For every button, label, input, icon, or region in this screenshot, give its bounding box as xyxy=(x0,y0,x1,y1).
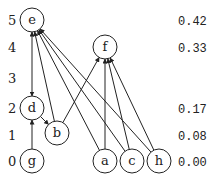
edge-d-b xyxy=(40,116,48,124)
node-b: b xyxy=(45,121,69,145)
level-label: 0 xyxy=(8,154,16,169)
level-value: 0.00 xyxy=(178,156,207,170)
level-label: 5 xyxy=(8,13,16,28)
level-value: 0.08 xyxy=(178,130,207,144)
node-a: a xyxy=(93,149,117,173)
level-label: 3 xyxy=(8,71,16,86)
level-values: 0.420.330.170.080.00 xyxy=(178,15,207,170)
node-f: f xyxy=(93,35,117,59)
edge-c-f xyxy=(108,59,129,150)
node-label: h xyxy=(155,153,164,168)
node-label: g xyxy=(28,153,36,168)
edge-h-f xyxy=(110,58,154,150)
level-label: 1 xyxy=(8,128,16,143)
node-d: d xyxy=(20,96,44,120)
level-value: 0.42 xyxy=(178,15,207,29)
level-label: 4 xyxy=(8,40,16,55)
node-e: e xyxy=(20,8,44,32)
node-c: c xyxy=(120,149,144,173)
node-h: h xyxy=(147,149,171,173)
level-value: 0.17 xyxy=(178,103,207,117)
node-label: e xyxy=(28,12,36,27)
hasse-diagram: efdbgach 543210 0.420.330.170.080.00 xyxy=(0,0,213,187)
level-labels: 543210 xyxy=(8,13,16,169)
node-g: g xyxy=(20,149,44,173)
node-label: c xyxy=(128,153,135,168)
level-value: 0.33 xyxy=(178,42,207,56)
node-label: d xyxy=(28,100,36,115)
node-label: a xyxy=(101,153,109,168)
level-label: 2 xyxy=(8,101,16,116)
node-label: b xyxy=(53,125,61,140)
